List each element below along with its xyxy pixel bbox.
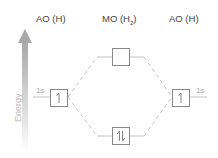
header-mo-text: MO (H xyxy=(102,13,130,24)
header-ao-right: AO (H) xyxy=(169,13,199,24)
orbital-box-antibonding xyxy=(113,49,130,66)
energy-arrow-icon xyxy=(18,29,32,152)
energy-axis-label: Energy xyxy=(13,93,23,122)
header-ao-left: AO (H) xyxy=(36,13,66,24)
header-mo: MO (H2) xyxy=(102,13,136,26)
orbital-label-right: 1s xyxy=(196,86,204,95)
orbital-box-bonding xyxy=(113,128,130,145)
header-mo-close: ) xyxy=(133,13,136,24)
orbital-label-left: 1s xyxy=(36,86,44,95)
